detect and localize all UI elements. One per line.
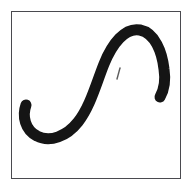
ink-layer (12, 12, 180, 178)
small-diagonal-tick (117, 68, 120, 79)
drawing-canvas-frame (11, 11, 181, 179)
main-s-stroke (24, 30, 164, 139)
